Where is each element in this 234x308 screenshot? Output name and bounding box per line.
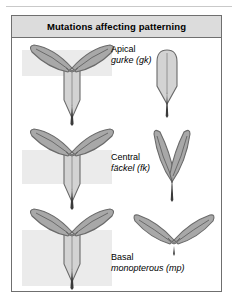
label-region-apical: Apical (111, 44, 152, 55)
label-gene-gurke: gurke (gk) (111, 55, 152, 66)
row-apical: Apical gurke (gk) (12, 38, 221, 126)
row-central: Central fäckel (fk) (12, 124, 221, 206)
page-top-rule (6, 6, 232, 7)
wild-type-seedling (26, 206, 118, 290)
label-gene-monopterous: monopterous (mp) (111, 263, 185, 274)
figure-title-bar: Mutations affecting patterning (12, 16, 221, 38)
row-basal: Basal monopterous (mp) (12, 204, 221, 292)
gurke-mutant-seedling (150, 46, 184, 118)
monopterous-mutant-seedling (132, 210, 216, 256)
label-apical: Apical gurke (gk) (111, 44, 152, 65)
fackel-mutant-seedling (144, 126, 200, 202)
figure-body: Apical gurke (gk) (12, 38, 221, 292)
figure-title: Mutations affecting patterning (47, 21, 186, 32)
wild-type-seedling (26, 126, 118, 210)
figure-panel: Mutations affecting patterning (11, 15, 222, 292)
wild-type-seedling (26, 42, 118, 126)
